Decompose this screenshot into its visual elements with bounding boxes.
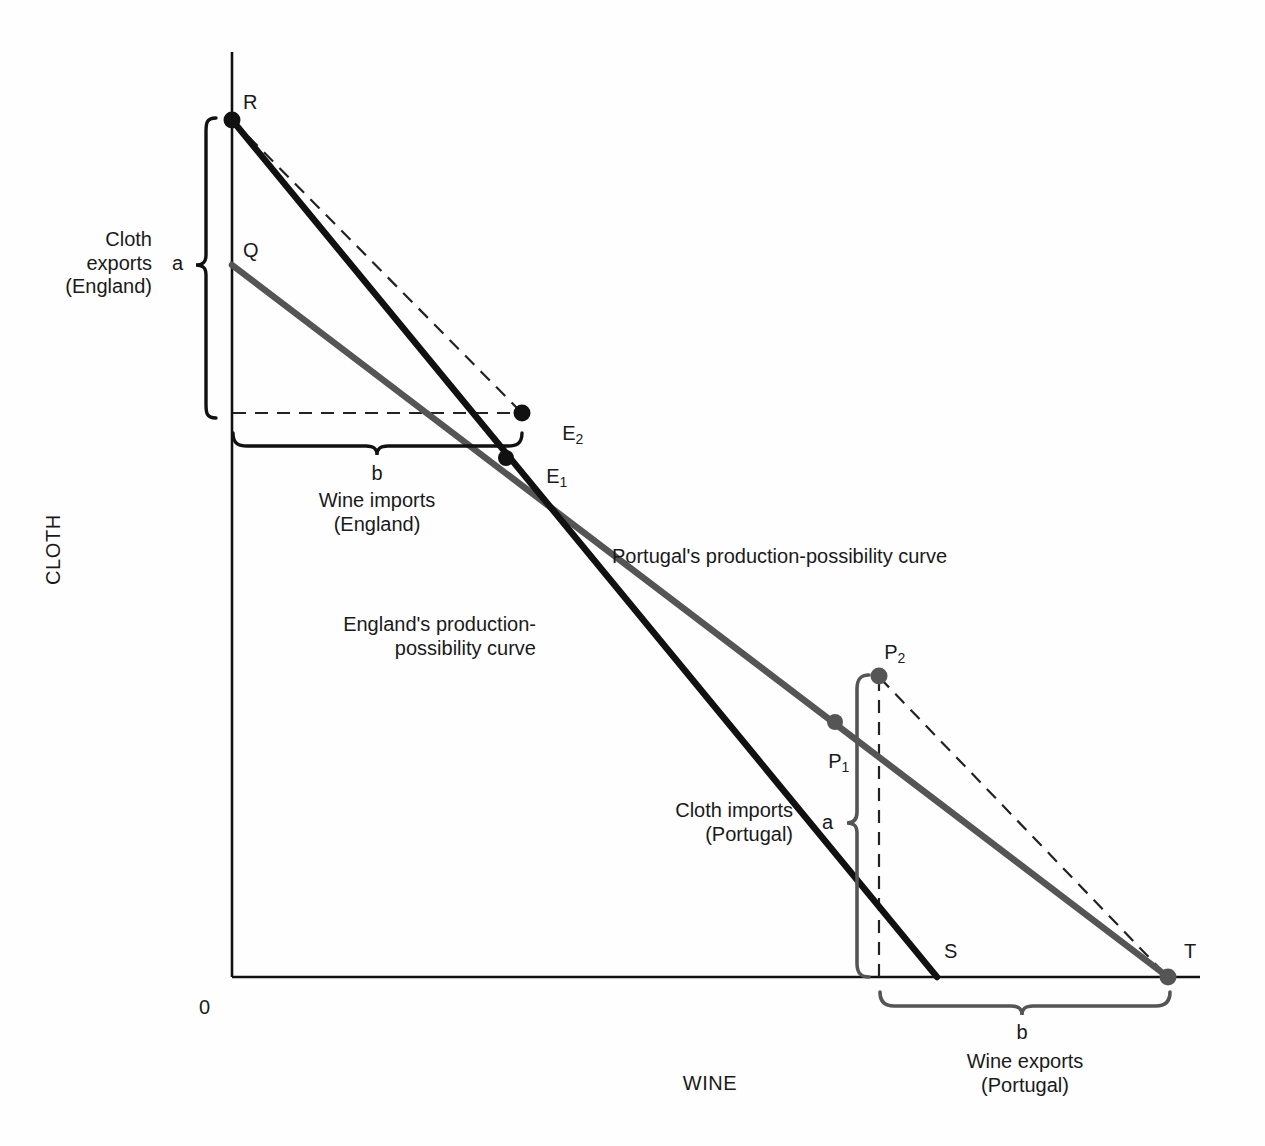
cloth-imports-portugal-label: Cloth imports (Portugal) bbox=[553, 799, 793, 846]
point-label-E1-letter: E bbox=[546, 465, 559, 487]
point-marker-R bbox=[224, 112, 241, 129]
point-label-E1: E1 bbox=[524, 441, 567, 514]
dashed-trade-line-england bbox=[233, 121, 521, 412]
cloth-exports-england-label: Cloth exports (England) bbox=[2, 228, 152, 299]
point-label-T: T bbox=[1184, 940, 1196, 964]
brace-cloth-imports-portugal bbox=[847, 675, 869, 977]
wine-exports-portugal-label: Wine exports (Portugal) bbox=[892, 1050, 1158, 1097]
point-label-P1: P1 bbox=[806, 726, 849, 799]
point-label-E1-subscript: 1 bbox=[560, 474, 568, 490]
dashed-trade-line-portugal bbox=[880, 678, 1166, 975]
point-label-P1-letter: P bbox=[828, 750, 841, 772]
point-label-P2-subscript: 2 bbox=[898, 650, 906, 666]
point-label-S: S bbox=[944, 940, 957, 964]
point-marker-E1 bbox=[498, 450, 514, 466]
comparative-advantage-figure: R Q E2 E1 P2 P1 S T Portugal's productio… bbox=[0, 0, 1265, 1146]
england-curve-label: England's production- possibility curve bbox=[236, 613, 536, 660]
chart-canvas bbox=[0, 0, 1265, 1146]
point-label-P2-letter: P bbox=[884, 641, 897, 663]
wine-imports-england-label: Wine imports (England) bbox=[237, 489, 517, 536]
point-label-Q: Q bbox=[243, 239, 259, 263]
point-label-E2-subscript: 2 bbox=[576, 431, 584, 447]
point-marker-T bbox=[1160, 969, 1177, 986]
wine-exports-brace-letter: b bbox=[985, 1021, 1059, 1045]
portugal-curve-label: Portugal's production-possibility curve bbox=[612, 545, 947, 569]
brace-wine-exports-portugal bbox=[880, 992, 1170, 1015]
point-marker-E2 bbox=[514, 405, 531, 422]
point-label-P1-subscript: 1 bbox=[842, 759, 850, 775]
cloth-exports-brace-letter: a bbox=[172, 252, 183, 276]
wine-imports-brace-letter: b bbox=[337, 462, 417, 486]
brace-cloth-exports-england bbox=[196, 118, 216, 418]
y-axis-title: CLOTH bbox=[42, 514, 66, 585]
point-label-R: R bbox=[243, 91, 257, 115]
cloth-imports-brace-letter: a bbox=[822, 811, 833, 835]
x-axis-title: WINE bbox=[650, 1072, 770, 1096]
point-label-P2: P2 bbox=[862, 617, 905, 690]
origin-label: 0 bbox=[199, 996, 210, 1020]
